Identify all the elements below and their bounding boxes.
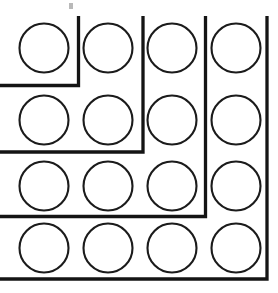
scan-speck-icon xyxy=(69,3,73,9)
geometric-figure-container xyxy=(0,0,278,293)
figure-background xyxy=(0,0,278,293)
scan-artifact-group xyxy=(69,3,73,9)
nested-gnomon-square-diagram xyxy=(0,0,278,293)
